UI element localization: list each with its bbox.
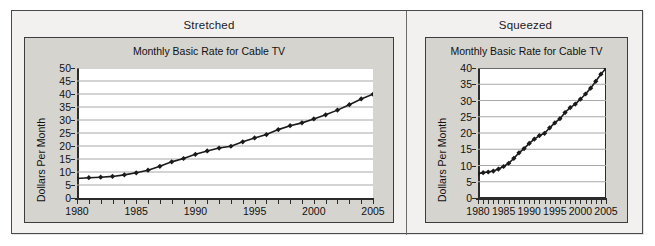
y-tick-mark xyxy=(71,159,75,160)
y-tick-mark xyxy=(71,146,75,147)
x-tick-label: 1985 xyxy=(125,205,148,217)
data-point-marker xyxy=(157,164,162,169)
y-tick-label: 15 xyxy=(59,153,71,165)
y-tick-label: 20 xyxy=(59,140,71,152)
x-tick-mark xyxy=(493,200,494,204)
data-point-marker xyxy=(86,175,91,180)
chart-card-stretched: Monthly Basic Rate for Cable TV Dollars … xyxy=(24,37,394,223)
x-tick-mark xyxy=(326,200,327,204)
plot-svg-squeezed xyxy=(478,68,606,198)
x-tick-mark xyxy=(606,200,607,204)
x-tick-mark xyxy=(278,200,279,204)
y-tick-mark xyxy=(472,117,476,118)
y-tick-mark xyxy=(472,166,476,167)
x-tick-label: 2000 xyxy=(302,205,325,217)
x-tick-mark xyxy=(545,200,546,204)
x-axis-line xyxy=(476,198,607,200)
y-tick-mark xyxy=(472,84,476,85)
chart-title-squeezed: Monthly Basic Rate for Cable TV xyxy=(426,45,627,57)
x-tick-mark xyxy=(207,200,208,204)
x-tick-mark xyxy=(534,200,535,204)
x-tick-mark xyxy=(529,200,530,204)
panel-squeezed: Squeezed Monthly Basic Rate for Cable TV… xyxy=(407,11,644,235)
x-tick-mark xyxy=(314,200,315,204)
x-tick-label: 1980 xyxy=(466,205,489,217)
y-tick-labels-squeezed: 0510152025303540 xyxy=(426,68,472,198)
x-tick-mark xyxy=(575,200,576,204)
x-tick-mark xyxy=(488,200,489,204)
data-point-marker xyxy=(77,176,80,181)
data-point-marker xyxy=(276,127,281,132)
data-point-marker xyxy=(228,144,233,149)
y-tick-mark xyxy=(71,107,75,108)
plot-svg-stretched xyxy=(77,68,373,198)
y-tick-labels-stretched: 05101520253035404550 xyxy=(25,68,71,198)
data-point-marker xyxy=(240,139,245,144)
x-tick-mark xyxy=(231,200,232,204)
x-tick-mark xyxy=(478,200,479,204)
x-tick-mark xyxy=(586,200,587,204)
y-tick-mark xyxy=(71,133,75,134)
y-tick-label: 35 xyxy=(460,78,472,90)
y-tick-label: 15 xyxy=(460,143,472,155)
x-tick-mark xyxy=(349,200,350,204)
x-tick-mark xyxy=(483,200,484,204)
x-tick-mark xyxy=(570,200,571,204)
data-point-marker xyxy=(193,152,198,157)
x-tick-mark xyxy=(124,200,125,204)
data-point-marker xyxy=(134,170,139,175)
data-point-marker xyxy=(122,172,127,177)
data-point-marker xyxy=(205,148,210,153)
y-tick-mark xyxy=(472,182,476,183)
x-tick-label: 2000 xyxy=(569,205,592,217)
data-point-marker xyxy=(347,102,352,107)
x-tick-mark xyxy=(160,200,161,204)
x-tick-mark xyxy=(243,200,244,204)
chart-card-squeezed: Monthly Basic Rate for Cable TV Dollars … xyxy=(425,37,628,223)
x-tick-mark xyxy=(580,200,581,204)
data-point-marker xyxy=(98,175,103,180)
x-tick-label: 2005 xyxy=(361,205,384,217)
x-tick-mark xyxy=(361,200,362,204)
x-tick-mark xyxy=(560,200,561,204)
y-tick-mark xyxy=(472,68,476,69)
x-tick-mark xyxy=(89,200,90,204)
panel-title-stretched: Stretched xyxy=(12,19,406,31)
y-tick-label: 30 xyxy=(59,114,71,126)
figure-frame: Stretched Monthly Basic Rate for Cable T… xyxy=(11,10,643,234)
x-tick-mark xyxy=(596,200,597,204)
x-tick-mark xyxy=(524,200,525,204)
x-tick-label: 1995 xyxy=(243,205,266,217)
x-tick-mark xyxy=(601,200,602,204)
x-tick-mark xyxy=(539,200,540,204)
panel-title-squeezed: Squeezed xyxy=(407,19,644,31)
x-tick-mark xyxy=(504,200,505,204)
data-point-marker xyxy=(335,108,340,113)
data-point-marker xyxy=(370,92,373,97)
x-tick-mark xyxy=(184,200,185,204)
y-tick-label: 40 xyxy=(59,88,71,100)
x-tick-mark xyxy=(136,200,137,204)
x-tick-label: 1990 xyxy=(184,205,207,217)
x-tick-label: 2005 xyxy=(594,205,617,217)
x-tick-label: 1990 xyxy=(518,205,541,217)
x-tick-mark xyxy=(113,200,114,204)
x-tick-mark xyxy=(172,200,173,204)
y-tick-label: 10 xyxy=(460,160,472,172)
data-point-marker xyxy=(169,159,174,164)
data-point-marker xyxy=(110,174,115,179)
data-point-marker xyxy=(311,116,316,121)
data-point-marker xyxy=(288,123,293,128)
x-tick-mark xyxy=(550,200,551,204)
data-point-marker xyxy=(299,120,304,125)
x-tick-mark xyxy=(195,200,196,204)
y-tick-mark xyxy=(472,149,476,150)
x-tick-mark xyxy=(509,200,510,204)
y-tick-label: 45 xyxy=(59,75,71,87)
data-point-marker xyxy=(486,169,491,174)
x-tick-mark xyxy=(148,200,149,204)
data-point-marker xyxy=(478,171,481,176)
panel-stretched: Stretched Monthly Basic Rate for Cable T… xyxy=(12,11,406,235)
x-tick-mark xyxy=(591,200,592,204)
data-point-marker xyxy=(359,96,364,101)
